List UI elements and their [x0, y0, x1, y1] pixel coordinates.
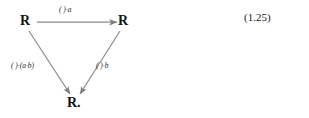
edge-label-top: ( )·a — [59, 6, 72, 14]
node-bottom-center: R. — [67, 96, 81, 110]
arrow-left — [29, 31, 70, 94]
node-top-left: R — [20, 14, 30, 28]
node-top-right: R — [118, 14, 128, 28]
edge-label-right: ( )·b — [96, 62, 109, 70]
equation-figure: R R R. ( )·a ( )·(a·b) ( )·b (1.25) — [0, 0, 309, 118]
equation-number: (1.25) — [244, 12, 271, 23]
edge-label-left: ( )·(a·b) — [11, 62, 34, 70]
